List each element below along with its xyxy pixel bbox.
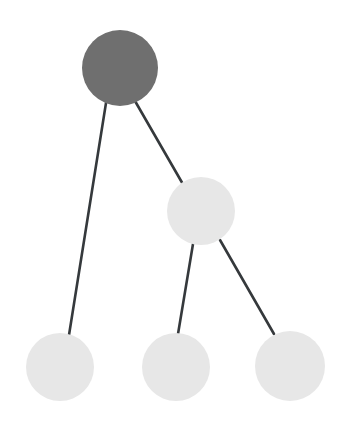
edge-root-to-leaf-left[interactable] bbox=[69, 103, 106, 335]
node-layer bbox=[26, 30, 325, 401]
edge-branch-to-leaf-right[interactable] bbox=[220, 240, 274, 334]
graph-svg bbox=[0, 0, 346, 428]
node-leaf-left[interactable] bbox=[26, 333, 94, 401]
node-branch[interactable] bbox=[167, 177, 235, 245]
node-leaf-middle[interactable] bbox=[142, 333, 210, 401]
node-leaf-right[interactable] bbox=[255, 331, 325, 401]
node-root[interactable] bbox=[82, 30, 158, 106]
graph-canvas bbox=[0, 0, 346, 428]
edge-root-to-branch[interactable] bbox=[135, 101, 184, 186]
edge-branch-to-leaf-middle[interactable] bbox=[178, 244, 193, 334]
